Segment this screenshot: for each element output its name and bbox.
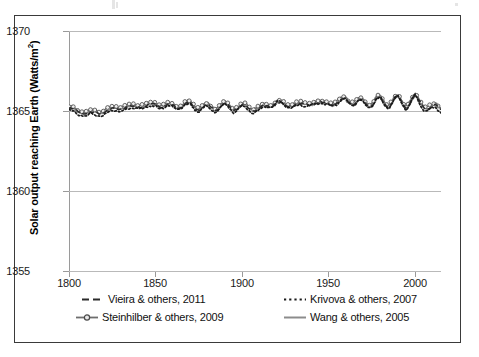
- y-tick-label-1360: 1360: [0, 185, 30, 197]
- y-tick-label-1370: 1370: [0, 25, 30, 37]
- x-tick-label-1950: 1950: [303, 277, 353, 289]
- legend-item-wang: Wang & others, 2005: [283, 311, 409, 323]
- x-tick-label-2000: 2000: [390, 277, 440, 289]
- y-tick-label-1355: 1355: [0, 265, 30, 277]
- legend-label-wang: Wang & others, 2005: [310, 311, 409, 323]
- x-tick-label-1850: 1850: [130, 277, 180, 289]
- legend-swatch-dotted: [283, 294, 307, 305]
- plot-area: [69, 31, 441, 272]
- chart-legend: Vieira & others, 2011 Krivova & others, …: [69, 292, 441, 332]
- legend-swatch-circle-marker: [75, 312, 99, 323]
- legend-item-vieira: Vieira & others, 2011: [81, 293, 206, 305]
- figure-frame: Solar output reaching Earth (Watts/m2) 1…: [14, 15, 461, 343]
- legend-item-krivova: Krivova & others, 2007: [283, 293, 417, 305]
- scan-artifacts: [0, 0, 479, 14]
- legend-swatch-dashed: [81, 294, 105, 305]
- series-plot: [69, 31, 441, 272]
- legend-label-steinhilber: Steinhilber & others, 2009: [102, 311, 223, 323]
- y-axis-title: Solar output reaching Earth (Watts/m2): [26, 0, 40, 348]
- x-tick-label-1900: 1900: [217, 277, 267, 289]
- solar-output-chart: Solar output reaching Earth (Watts/m2) 1…: [15, 16, 462, 344]
- legend-item-steinhilber: Steinhilber & others, 2009: [75, 311, 223, 323]
- y-tick-label-1365: 1365: [0, 105, 30, 117]
- legend-label-krivova: Krivova & others, 2007: [310, 293, 417, 305]
- legend-label-vieira: Vieira & others, 2011: [108, 293, 206, 305]
- x-tick-label-1800: 1800: [44, 277, 94, 289]
- legend-swatch-solid: [283, 312, 307, 323]
